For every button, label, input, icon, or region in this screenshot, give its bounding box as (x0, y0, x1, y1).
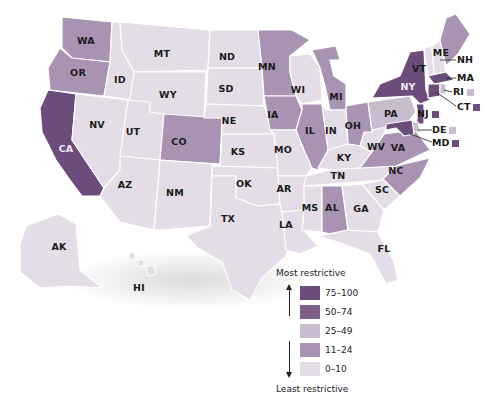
label-ND: ND (219, 51, 235, 62)
label-MT: MT (154, 48, 170, 59)
label-ME: ME (433, 47, 449, 58)
legend-row: 11–24 (300, 343, 352, 357)
label-NE: NE (222, 115, 237, 126)
label-ID: ID (114, 74, 126, 85)
label-VT: VT (412, 63, 426, 74)
label-MS: MS (302, 202, 319, 213)
label-TN: TN (331, 170, 346, 181)
label-WI: WI (291, 84, 305, 95)
legend-row: 50–74 (300, 305, 352, 319)
label-WY: WY (159, 89, 177, 100)
label-AL: AL (325, 202, 339, 213)
state-SD[interactable] (206, 68, 264, 106)
label-NC: NC (388, 165, 403, 176)
callout-MD-text: MD (432, 137, 449, 148)
state-NY[interactable] (372, 50, 430, 104)
legend-range: 25–49 (325, 326, 352, 336)
label-OH: OH (345, 120, 361, 131)
label-SC: SC (375, 184, 389, 195)
swatch-DE (449, 127, 456, 134)
callout-DE: DE (432, 124, 456, 135)
callout-NJ: NJ (417, 108, 439, 119)
label-CO: CO (171, 136, 186, 147)
callout-CT-text: CT (457, 101, 470, 112)
legend-swatch (300, 305, 320, 319)
label-PA: PA (384, 108, 398, 119)
label-CA: CA (59, 143, 74, 154)
legend-range: 75–100 (325, 288, 358, 298)
state-HI-3[interactable] (146, 266, 156, 276)
label-VA: VA (391, 142, 405, 153)
label-AZ: AZ (118, 179, 133, 190)
legend-top-label: Most restrictive (276, 268, 346, 278)
callout-MA-text: MA (457, 72, 474, 83)
arrow-up-icon (289, 288, 290, 316)
state-ND[interactable] (208, 30, 262, 68)
label-NY: NY (400, 81, 415, 92)
swatch-CT (473, 104, 480, 111)
legend-range: 11–24 (325, 345, 352, 355)
label-AR: AR (276, 183, 291, 194)
swatch-RI (467, 89, 474, 96)
label-FL: FL (378, 243, 391, 254)
callout-NH: NH (457, 54, 473, 65)
label-IN: IN (325, 125, 337, 136)
swatch-NJ (432, 111, 439, 118)
label-TX: TX (221, 213, 235, 224)
callout-NH-text: NH (457, 54, 473, 65)
label-GA: GA (353, 203, 369, 214)
label-LA: LA (279, 219, 293, 230)
callout-RI-text: RI (453, 86, 464, 97)
label-AK: AK (51, 241, 66, 252)
state-CO[interactable] (160, 114, 222, 164)
state-HI-1[interactable] (128, 252, 136, 260)
label-IA: IA (267, 109, 278, 120)
label-UT: UT (126, 126, 141, 137)
label-MN: MN (258, 61, 276, 72)
label-WV: WV (367, 141, 385, 152)
legend-swatch (300, 343, 320, 357)
state-HI-2[interactable] (138, 260, 144, 266)
label-WA: WA (77, 35, 95, 46)
state-CT[interactable] (428, 84, 440, 98)
label-IL: IL (305, 125, 315, 136)
callout-RI: RI (453, 86, 474, 97)
label-OR: OR (70, 67, 86, 78)
legend-swatch (300, 286, 320, 300)
label-HI: HI (133, 282, 145, 293)
legend-swatch (300, 324, 320, 338)
arrow-down-icon (289, 341, 290, 374)
label-OK: OK (236, 178, 252, 189)
callout-MD: MD (432, 137, 459, 148)
label-KS: KS (231, 146, 246, 157)
label-MI: MI (329, 91, 342, 102)
label-NM: NM (166, 187, 184, 198)
swatch-MD (452, 140, 459, 147)
callout-DE-text: DE (432, 124, 446, 135)
legend-row: 25–49 (300, 324, 352, 338)
label-SD: SD (218, 83, 233, 94)
legend-row: 75–100 (300, 286, 358, 300)
legend-range: 50–74 (325, 307, 352, 317)
callout-NJ-text: NJ (417, 108, 429, 119)
state-KS[interactable] (220, 134, 278, 168)
state-RI[interactable] (440, 84, 446, 94)
legend-range: 0–10 (325, 364, 347, 374)
label-KY: KY (337, 152, 352, 163)
legend-bottom-label: Least restrictive (276, 384, 348, 394)
callout-CT: CT (457, 101, 480, 112)
callout-MA: MA (457, 72, 474, 83)
label-NV: NV (89, 119, 105, 130)
legend-swatch (300, 362, 320, 376)
label-MO: MO (274, 144, 292, 155)
legend-row: 0–10 (300, 362, 347, 376)
